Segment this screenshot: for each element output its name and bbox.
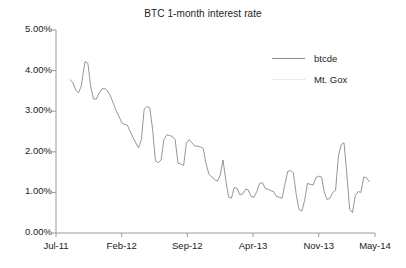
x-axis-tick-labels: Jul-11Feb-12Sep-12Apr-13Nov-13May-14 — [0, 0, 406, 268]
x-axis-tick-label: Sep-12 — [172, 240, 203, 251]
legend-item-btcde[interactable]: btcde — [272, 48, 392, 69]
x-axis-tick-label: Apr-13 — [239, 240, 268, 251]
chart-container: BTC 1-month interest rate 0.00%1.00%2.00… — [0, 0, 406, 268]
x-axis-tick-label: Feb-12 — [107, 240, 137, 251]
x-axis-tick-label: May-14 — [359, 240, 391, 251]
x-axis-tick-label: Nov-13 — [303, 240, 334, 251]
x-axis-tick-label: Jul-11 — [43, 240, 68, 251]
legend-line-swatch-dotted-icon — [272, 79, 305, 80]
legend-label: btcde — [314, 53, 337, 64]
legend-label: Mt. Gox — [314, 74, 347, 85]
legend-item-mt-gox[interactable]: Mt. Gox — [272, 69, 392, 90]
chart-legend: btcde Mt. Gox — [272, 48, 392, 90]
legend-line-swatch-solid-icon — [272, 58, 305, 59]
